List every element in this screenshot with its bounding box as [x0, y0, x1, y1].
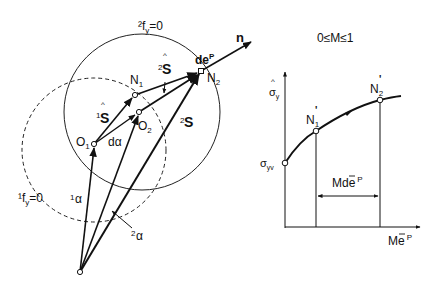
right-diagram: 0≤M≤1 ^ σy σyv N1 ' N2 — [260, 31, 420, 248]
point-O2 — [136, 109, 141, 114]
label-d-alpha: dα — [108, 135, 122, 149]
label-1alpha: α — [75, 192, 82, 206]
prime-N1: ' — [315, 105, 317, 116]
point-N2 — [199, 69, 204, 74]
point-N1-prime — [313, 128, 319, 134]
interval-label: MdeP — [332, 175, 363, 190]
hardening-curve — [285, 96, 401, 163]
label-2fy: ²fy=0 — [138, 19, 163, 35]
point-N2-prime — [377, 97, 383, 103]
label-1fy: ¹fy=0 — [18, 191, 43, 207]
label-2S-hat: S — [162, 61, 171, 77]
label-2S-hat-hat: ^ — [163, 51, 167, 60]
label-N1-prime: N1 — [306, 113, 320, 129]
point-base — [77, 269, 82, 274]
label-O1: O1 — [76, 135, 90, 151]
label-N1: N1 — [130, 73, 144, 89]
point-sigma-yv — [282, 160, 288, 166]
prime-N2: ' — [379, 74, 381, 85]
diagram-canvas: ²fy=0 ¹fy=0 n deP N2 N1 O2 O1 2 ^ S 1 ^ … — [0, 0, 438, 289]
x-axis-label: MeP — [388, 233, 412, 248]
label-N2: N2 — [207, 71, 221, 87]
label-2alpha: α — [136, 229, 143, 243]
2alpha-pointer — [112, 211, 132, 228]
point-N1 — [132, 92, 137, 97]
label-O2: O2 — [138, 119, 152, 135]
label-2S: S — [184, 114, 193, 130]
label-N2-prime: N2 — [370, 82, 384, 98]
y-axis-hat: ^ — [271, 77, 275, 86]
y-axis-label: σy — [269, 86, 280, 101]
point-O1 — [91, 141, 96, 146]
left-diagram: ²fy=0 ¹fy=0 n deP N2 N1 O2 O1 2 ^ S 1 ^ … — [18, 19, 251, 275]
2S-hat-pointer — [164, 82, 165, 93]
title-m-range: 0≤M≤1 — [317, 31, 354, 45]
label-n: n — [236, 30, 244, 45]
label-1S-hat: S — [100, 110, 109, 126]
y0-label: σyv — [260, 157, 274, 172]
label-1S-hat-hat: ^ — [101, 100, 105, 109]
